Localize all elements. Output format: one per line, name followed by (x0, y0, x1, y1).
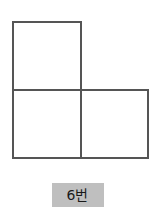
bottom-right-square (81, 90, 148, 158)
bottom-left-square (13, 90, 81, 158)
label-strip: 6번 (0, 183, 155, 207)
figure-label: 6번 (52, 183, 104, 207)
top-left-square (13, 22, 81, 90)
l-tromino-diagram (0, 0, 155, 207)
figure-container: 6번 (0, 0, 155, 207)
